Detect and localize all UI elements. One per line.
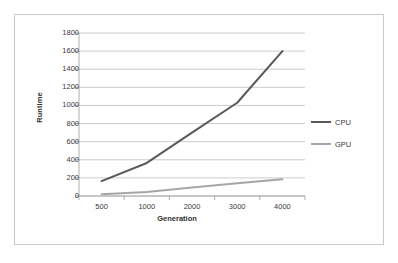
x-axis-tick-label: 500 <box>82 203 122 211</box>
legend-swatch-gpu <box>311 143 331 145</box>
x-axis-tick-label: 3000 <box>217 203 257 211</box>
x-axis-title: Generation <box>67 214 287 223</box>
chart-plot-area: Runtime 02004006008001000120014001600180… <box>15 15 383 244</box>
legend-item-gpu[interactable]: GPU <box>311 133 381 155</box>
legend-label: CPU <box>335 118 351 127</box>
legend-label: GPU <box>335 140 351 149</box>
x-axis-tick-label: 1000 <box>127 203 167 211</box>
legend-item-cpu[interactable]: CPU <box>311 111 381 133</box>
x-axis-tick-label: 2000 <box>172 203 212 211</box>
chart-frame: Runtime 02004006008001000120014001600180… <box>14 14 384 245</box>
chart-legend: CPUGPU <box>311 111 381 155</box>
x-axis-tick-label: 4000 <box>262 203 302 211</box>
legend-swatch-cpu <box>311 121 331 123</box>
